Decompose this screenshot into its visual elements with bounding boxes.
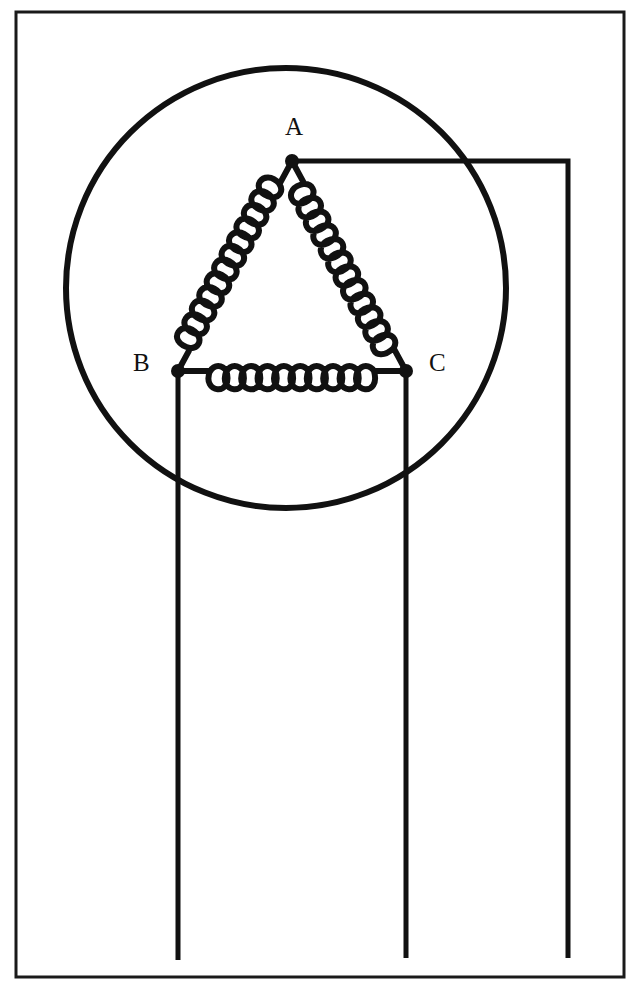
figure-root: A B C	[0, 0, 640, 995]
winding-AC-coil	[291, 161, 406, 371]
winding-BC-coil	[178, 366, 406, 389]
delta-windings-group	[177, 161, 406, 389]
node-dot-B	[171, 364, 185, 378]
circuit-diagram-canvas	[0, 0, 640, 995]
node-dot-A	[285, 154, 299, 168]
node-label-B: B	[133, 350, 150, 375]
lead-wires-group	[178, 161, 568, 960]
node-dot-C	[399, 364, 413, 378]
node-label-A: A	[285, 114, 303, 139]
winding-AB-coil	[177, 161, 292, 371]
node-label-C: C	[429, 350, 446, 375]
